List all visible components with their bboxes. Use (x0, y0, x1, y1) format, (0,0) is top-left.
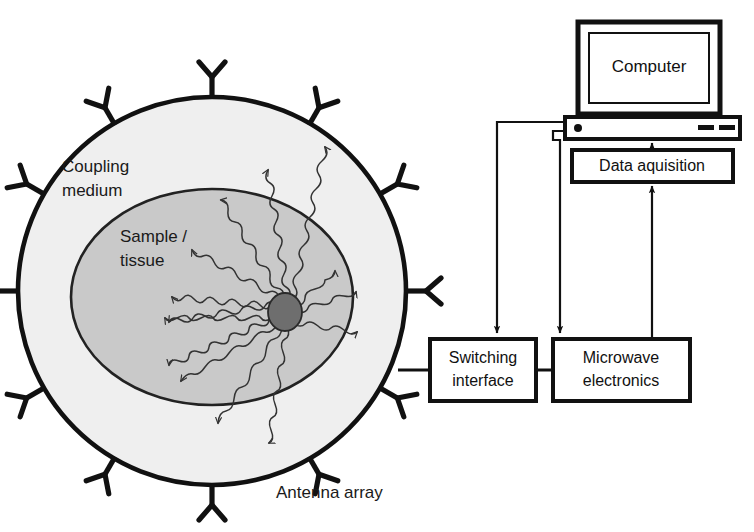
power-indicator-icon (574, 124, 582, 132)
drive-slot-icon (698, 125, 714, 130)
microwave-electronics-block[interactable]: Microwave electronics (553, 339, 690, 401)
switching-interface-label-line1: Switching (449, 349, 517, 366)
computer-to-microwave-line (553, 131, 565, 333)
computer-block[interactable]: Computer (565, 22, 740, 139)
coupling-medium-label-line2: medium (62, 181, 122, 200)
tumor-inclusion (268, 293, 302, 331)
diagram-root: Coupling medium Sample / tissue Antenna … (0, 0, 754, 532)
antenna-element (0, 278, 18, 304)
antenna-element (199, 485, 225, 520)
imaging-chamber: Coupling medium Sample / tissue Antenna … (0, 62, 441, 520)
sample-tissue-label-line1: Sample / (120, 227, 187, 246)
antenna-element (199, 62, 225, 97)
data-acquisition-block[interactable]: Data aquisition (572, 150, 733, 182)
system-diagram-canvas: Coupling medium Sample / tissue Antenna … (0, 0, 754, 532)
computer-to-switching-line (497, 122, 565, 333)
computer-label: Computer (612, 57, 687, 76)
microwave-electronics-label-line2: electronics (583, 372, 659, 389)
data-acquisition-label: Data aquisition (599, 157, 705, 174)
microwave-electronics-label-line1: Microwave (583, 349, 660, 366)
switching-interface-label-line2: interface (452, 372, 513, 389)
sample-tissue-label-line2: tissue (120, 251, 164, 270)
switching-interface-block[interactable]: Switching interface (430, 339, 536, 401)
coupling-medium-label-line1: Coupling (62, 157, 129, 176)
antenna-array-label: Antenna array (276, 483, 383, 502)
drive-slot-icon (719, 125, 735, 130)
antenna-element (406, 278, 441, 304)
